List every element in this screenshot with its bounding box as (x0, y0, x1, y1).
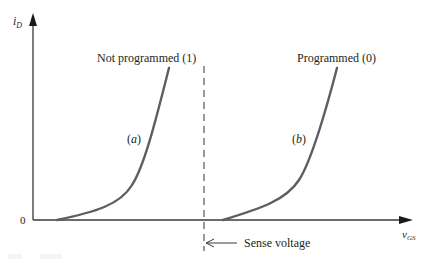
y-axis-label: iD (13, 14, 22, 30)
not-programmed-label: Not programmed (1) (97, 51, 196, 65)
x-axis-arrow-icon (399, 216, 413, 224)
programmed-label: Programmed (0) (297, 51, 376, 65)
diagram-canvas: iD vGS 0 (a) (b) Not programmed (1) Prog… (0, 0, 437, 263)
sense-voltage-pointer (206, 239, 237, 247)
origin-label: 0 (20, 214, 26, 226)
faint-caption-remnant (8, 254, 62, 259)
curve-b-programmed (223, 68, 337, 220)
curve-b-tag: (b) (292, 132, 306, 146)
sense-voltage-label: Sense voltage (244, 236, 310, 250)
x-axis-label: vGS (402, 228, 416, 242)
y-axis-arrow-icon (29, 13, 37, 26)
curve-a-tag: (a) (127, 132, 141, 146)
curve-a-not-programmed (57, 68, 169, 220)
y-axis (29, 13, 37, 220)
